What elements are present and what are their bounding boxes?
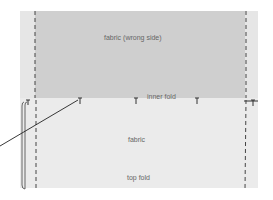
pin-icon — [26, 100, 30, 105]
pointer-line — [0, 100, 78, 146]
folded-edge-left — [22, 102, 27, 189]
pin-icon — [134, 98, 138, 104]
pin-icon — [195, 98, 199, 104]
stitch-lines-and-pins — [0, 0, 273, 200]
pin-icon — [78, 98, 82, 104]
pin-icons — [26, 98, 258, 106]
seam-line-right-bottom — [245, 100, 246, 190]
